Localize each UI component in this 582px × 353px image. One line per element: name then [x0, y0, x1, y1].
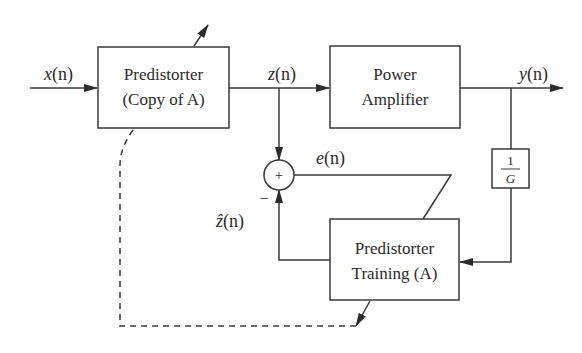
- pa-label-2: Amplifier: [361, 90, 428, 109]
- signal-e-label: e(n): [316, 148, 345, 169]
- summing-junction: + −: [259, 160, 294, 207]
- training-label-1: Predistorter: [355, 239, 435, 258]
- gain-numerator: 1: [507, 153, 514, 168]
- signal-x-label: x(n): [43, 64, 73, 85]
- training-block: Predistorter Training (A): [330, 219, 459, 300]
- predistorter-label-2: (Copy of A): [122, 90, 204, 109]
- signal-zhat-label: ẑ(n): [215, 211, 244, 232]
- predistorter-block: Predistorter (Copy of A): [98, 47, 229, 128]
- error-line: [294, 175, 451, 219]
- adaptation-arrow-icon: [194, 25, 208, 46]
- gain-denominator: G: [506, 171, 516, 186]
- block-diagram: Predistorter (Copy of A) Power Amplifier…: [0, 0, 582, 353]
- zhat-to-summer-arrow: [279, 190, 330, 260]
- minus-sign: −: [259, 190, 268, 207]
- power-amplifier-block: Power Amplifier: [330, 46, 460, 128]
- gain-to-training-arrow: [460, 188, 511, 262]
- signal-y-label: y(n): [517, 64, 548, 85]
- training-dashed-arrow: [356, 301, 370, 326]
- predistorter-label-1: Predistorter: [124, 65, 204, 84]
- signal-z-label: z(n): [267, 64, 296, 85]
- gain-block: 1 G: [492, 149, 529, 188]
- pa-label-1: Power: [373, 65, 417, 84]
- plus-sign: +: [275, 168, 283, 183]
- training-label-2: Training (A): [352, 264, 438, 283]
